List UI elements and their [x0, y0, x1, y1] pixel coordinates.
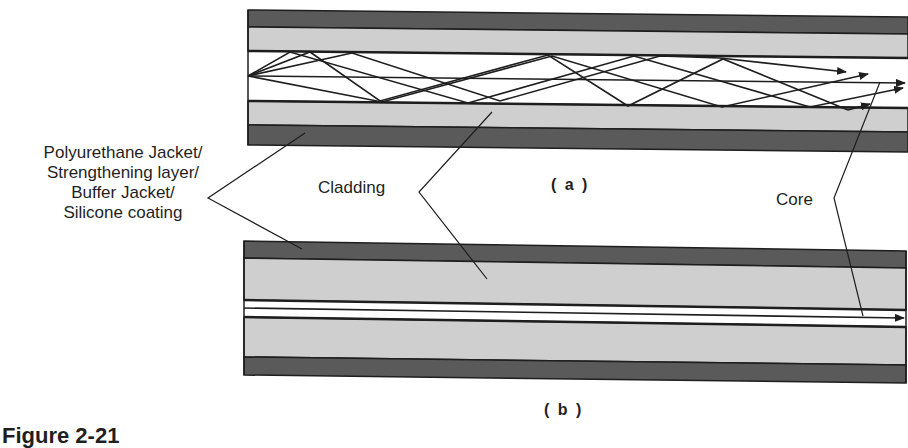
cladding-label: Cladding	[318, 178, 385, 198]
figure-caption: Figure 2-21	[2, 424, 119, 448]
jacket-label: Polyurethane Jacket/ Strengthening layer…	[8, 143, 238, 223]
fiber-a	[248, 10, 908, 152]
core-label: Core	[776, 190, 813, 210]
panel-b-label: ( b )	[544, 400, 583, 420]
jacket-label-line-2: Strengthening layer/	[8, 163, 238, 183]
jacket-label-line-4: Silicone coating	[8, 203, 238, 223]
fiber-b	[244, 241, 906, 383]
jacket-label-line-1: Polyurethane Jacket/	[8, 143, 238, 163]
jacket-label-line-3: Buffer Jacket/	[8, 183, 238, 203]
panel-a-label: ( a )	[551, 175, 589, 195]
